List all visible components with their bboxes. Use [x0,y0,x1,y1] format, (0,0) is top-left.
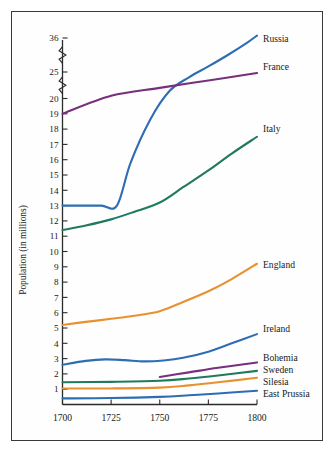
x-tick-label: 1725 [102,412,121,423]
series-line-bohemia [160,362,257,377]
series-label-italy: Italy [263,123,281,134]
series-label-bohemia: Bohemia [263,352,298,363]
y-tick-label: 7 [54,293,59,303]
y-tick-label: 9 [54,262,59,272]
x-tick-label: 1700 [53,412,72,423]
y-tick-label: 6 [54,308,59,318]
y-tick-label: 11 [50,231,59,241]
y-tick-label: 20 [49,94,59,104]
y-tick-label: 18 [49,124,59,134]
y-tick-label: 25 [49,67,59,77]
series-line-russia [63,36,258,209]
series-label-russia: Russia [263,33,289,44]
y-tick-label: 36 [49,33,59,43]
y-axis-title-group: Population (in millions) [18,205,29,295]
x-axis: 17001725175017751800 [53,400,267,423]
y-tick-label: 19 [49,109,59,119]
series-label-france: France [263,61,289,72]
y-tick-label: 2 [54,369,59,379]
y-tick-label: 15 [49,170,59,180]
x-tick-label: 1750 [150,412,169,423]
y-tick-label: 10 [49,247,59,257]
y-tick-label: 3 [54,354,59,364]
series-line-ireland [63,334,258,365]
series-label-ireland: Ireland [263,323,290,334]
series-line-east-prussia [63,391,258,399]
y-tick-label: 13 [49,201,59,211]
y-tick-label: 17 [49,140,59,150]
y-tick-label: 8 [54,277,59,287]
series-label-sweden: Sweden [263,364,294,375]
figure-container: 12345678910111213141516171819202536 1700… [0,0,336,454]
population-line-chart: 12345678910111213141516171819202536 1700… [0,0,336,454]
series-line-england [63,264,258,325]
series-label-group: RussiaFranceItalyEnglandIrelandBohemiaSw… [263,33,310,399]
series-line-france [63,73,258,114]
y-tick-label: 4 [54,339,59,349]
series-label-silesia: Silesia [263,376,289,387]
series-label-east-prussia: East Prussia [263,388,310,399]
y-tick-label: 1 [54,384,59,394]
y-tick-label: 16 [49,155,59,165]
x-tick-label: 1800 [247,412,266,423]
data-series-group [63,36,258,399]
series-label-england: England [263,259,295,270]
y-axis-title: Population (in millions) [18,205,29,295]
y-tick-label: 5 [54,323,59,333]
series-line-italy [63,137,258,230]
y-tick-label: 14 [49,186,59,196]
y-tick-label: 12 [49,216,59,226]
y-axis: 12345678910111213141516171819202536 [49,33,67,404]
x-tick-label: 1775 [199,412,218,423]
